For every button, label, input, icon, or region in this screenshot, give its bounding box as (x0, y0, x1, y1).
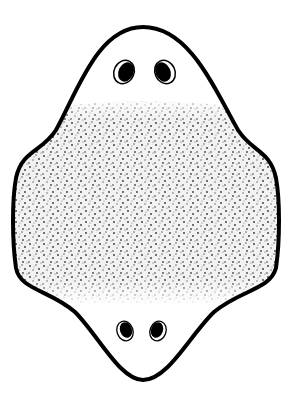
organism-diagram (0, 0, 293, 398)
body-group (0, 27, 293, 380)
